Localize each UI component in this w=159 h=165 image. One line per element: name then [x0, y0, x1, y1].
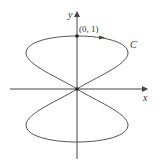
origin-point — [75, 87, 79, 91]
y-axis-label: y — [67, 9, 73, 20]
point-0-1 — [75, 34, 79, 38]
x-axis-label: x — [142, 92, 148, 103]
figure-eight-diagram: y x C (0, 1) — [0, 0, 159, 165]
curve-label: C — [130, 39, 137, 50]
direction-arrow-icon — [99, 36, 105, 40]
point-label: (0, 1) — [79, 24, 99, 34]
